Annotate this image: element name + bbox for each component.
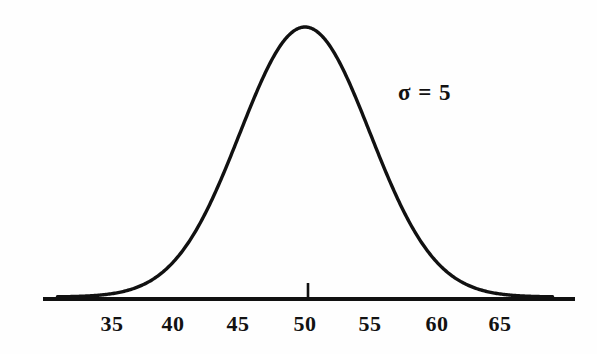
axis-tick-label-45: 45: [227, 313, 250, 335]
bell-curve-path: [57, 27, 552, 297]
axis-tick-label-50: 50: [294, 313, 317, 335]
axis-tick-label-55: 55: [359, 313, 382, 335]
axis-tick-label-35: 35: [101, 313, 124, 335]
axis-tick-label-65: 65: [489, 313, 512, 335]
axis-tick-label-40: 40: [162, 313, 185, 335]
sigma-annotation-label: σ = 5: [398, 81, 452, 104]
axis-tick-label-60: 60: [426, 313, 449, 335]
normal-distribution-figure: 35404550556065 σ = 5: [0, 0, 597, 354]
bell-curve-plot: [0, 0, 597, 354]
